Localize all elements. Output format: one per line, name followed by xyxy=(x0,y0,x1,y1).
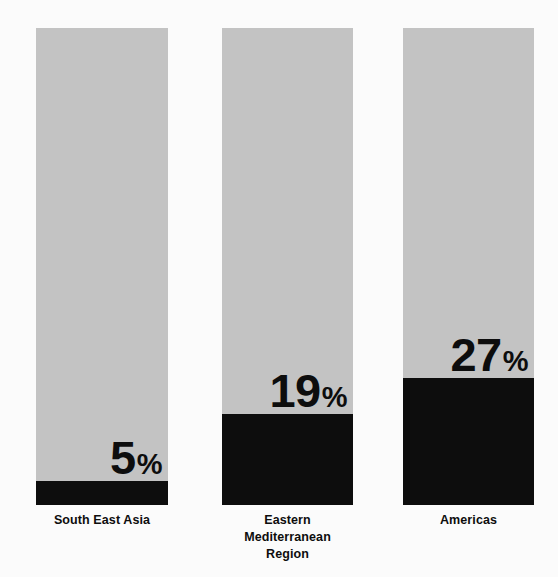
bar-value-percent-sign: % xyxy=(503,345,528,377)
bar-value-number: 27 xyxy=(450,328,501,381)
bar-category-label: Americas xyxy=(389,512,548,529)
bar-group-south-east-asia: 5% South East Asia xyxy=(36,0,168,577)
bar-value-label: 27% xyxy=(450,331,528,378)
bar-value-percent-sign: % xyxy=(322,381,347,413)
bar-category-label: South East Asia xyxy=(22,512,182,529)
bar-category-label-line: Region xyxy=(208,546,367,563)
bar-chart: 5% South East Asia 19% Eastern Mediterra… xyxy=(0,0,558,577)
bar-track xyxy=(403,28,534,505)
bar-fill xyxy=(36,481,168,505)
bar-value-percent-sign: % xyxy=(137,448,162,480)
bar-value-label: 5% xyxy=(110,434,162,481)
bar-value-label: 19% xyxy=(269,367,347,414)
bar-category-label-line: Americas xyxy=(389,512,548,529)
bar-category-label: Eastern Mediterranean Region xyxy=(208,512,367,562)
bar-category-label-line: Mediterranean xyxy=(208,529,367,546)
bar-category-label-line: Eastern xyxy=(208,512,367,529)
bar-value-number: 5 xyxy=(110,431,136,484)
bar-track xyxy=(222,28,353,505)
bar-group-americas: 27% Americas xyxy=(403,0,534,577)
bar-fill xyxy=(403,378,534,505)
bar-value-number: 19 xyxy=(269,364,320,417)
bar-category-label-line: South East Asia xyxy=(22,512,182,529)
bar-fill xyxy=(222,414,353,505)
bar-group-eastern-mediterranean-region: 19% Eastern Mediterranean Region xyxy=(222,0,353,577)
